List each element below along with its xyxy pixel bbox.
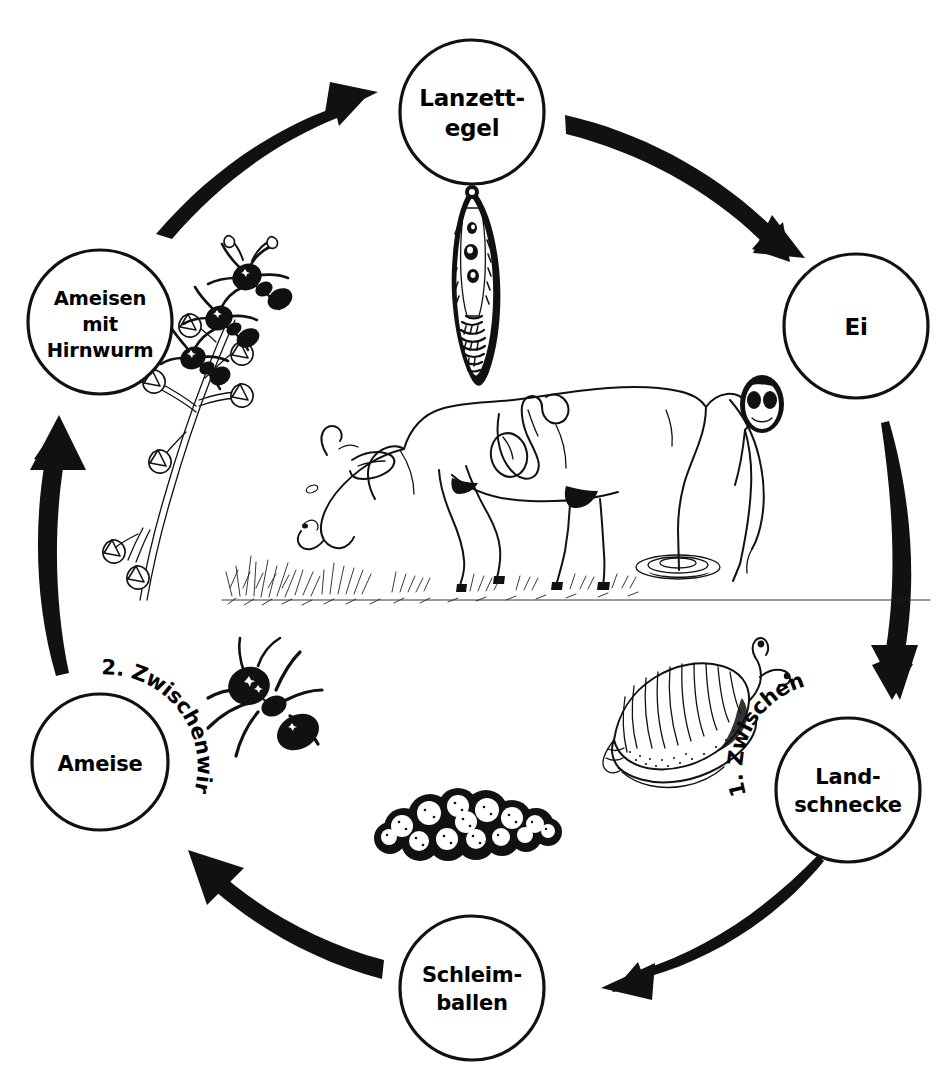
node-landschnecke-label-line-1: Land- bbox=[815, 765, 880, 789]
label-zweiter-zwischenwirt-text: 2. Zwischenwirt bbox=[0, 0, 217, 797]
arrow-landschnecke-to-schleimballen bbox=[601, 855, 824, 1000]
fluke-illustration bbox=[452, 185, 501, 386]
grass-ground bbox=[222, 556, 930, 605]
node-schleimballen[interactable]: Schleim- ballen bbox=[400, 916, 544, 1060]
node-landschnecke[interactable]: Land- schnecke bbox=[776, 718, 920, 862]
node-lanzettegel-circle[interactable] bbox=[400, 40, 544, 184]
node-ei-label: Ei bbox=[844, 314, 867, 340]
node-schleimballen-label-line-1: Schleim- bbox=[422, 963, 522, 987]
node-landschnecke-label-line-2: schnecke bbox=[794, 793, 902, 817]
clinging-ant-3 bbox=[161, 329, 234, 389]
node-ameisen-mit-hirnwurm-label-line-2: mit bbox=[82, 313, 118, 336]
node-schleimballen-label-line-2: ballen bbox=[436, 991, 508, 1015]
diagram-canvas: Lanzett- egel Ei Land- schnecke Schleim-… bbox=[0, 0, 944, 1084]
arrow-ei-to-landschnecke bbox=[871, 421, 918, 700]
node-ameisen-mit-hirnwurm[interactable]: Ameisen mit Hirnwurm bbox=[28, 250, 172, 394]
arrow-schleimballen-to-ameise bbox=[188, 850, 384, 979]
node-lanzettegel[interactable]: Lanzett- egel bbox=[400, 40, 544, 184]
node-ameise-label: Ameise bbox=[57, 752, 142, 776]
node-ameisen-mit-hirnwurm-label-line-1: Ameisen bbox=[54, 287, 147, 310]
liver-bile-duct-inset bbox=[487, 395, 569, 481]
arrow-lanzettegel-to-ei bbox=[565, 115, 805, 262]
node-landschnecke-circle[interactable] bbox=[776, 718, 920, 862]
clinging-ant-1 bbox=[208, 236, 296, 315]
arrow-ameisen-mit-hirnwurm-to-lanzettegel bbox=[156, 82, 378, 239]
arrow-ameise-to-ameisen-mit-hirnwurm bbox=[30, 415, 86, 676]
clinging-ant-2 bbox=[183, 287, 263, 352]
cow-illustration bbox=[222, 387, 930, 605]
node-schleimballen-circle[interactable] bbox=[400, 916, 544, 1060]
node-ameisen-mit-hirnwurm-label-line-3: Hirnwurm bbox=[47, 339, 154, 362]
node-lanzettegel-label-line-1: Lanzett- bbox=[419, 85, 524, 111]
node-ameise[interactable]: Ameise bbox=[32, 694, 168, 830]
label-zweiter-zwischenwirt: 2. Zwischenwirt bbox=[0, 0, 217, 797]
life-cycle-diagram: Lanzett- egel Ei Land- schnecke Schleim-… bbox=[0, 0, 944, 1084]
slimeball-illustration bbox=[374, 788, 562, 861]
node-lanzettegel-label-line-2: egel bbox=[445, 115, 500, 141]
egg-illustration bbox=[740, 375, 784, 433]
ant-illustration bbox=[208, 638, 325, 757]
node-ei[interactable]: Ei bbox=[784, 254, 928, 398]
